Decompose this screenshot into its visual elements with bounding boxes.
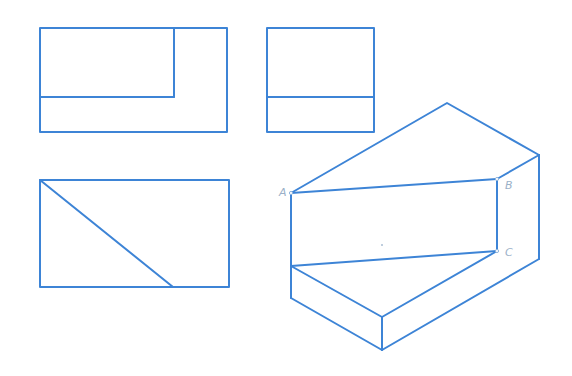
solid-edge-ab <box>291 179 497 193</box>
top-view-outline <box>40 180 229 287</box>
front-view-outline <box>40 28 227 132</box>
vertex-label-c: C <box>505 246 513 259</box>
solid-edge-leftmid-fronttop <box>291 266 382 317</box>
vertex-label-b: B <box>505 179 513 192</box>
solid-top-ridge <box>291 103 539 193</box>
isometric-solid: A B C <box>278 103 539 350</box>
solid-edge-c-fronttop <box>382 251 497 317</box>
top-view-diagonal <box>40 180 173 287</box>
solid-edge-leftbottom-frontbottom <box>291 298 382 350</box>
vertex-b-marker <box>495 177 498 180</box>
front-view <box>40 28 227 132</box>
side-view-outline <box>267 28 374 132</box>
solid-edge-b-right <box>497 155 539 179</box>
side-view <box>267 28 374 132</box>
vertex-c-marker <box>495 249 498 252</box>
vertex-a-marker <box>289 191 292 194</box>
center-speck <box>381 244 383 246</box>
diagram-canvas: A B C <box>0 0 572 376</box>
solid-edge-c-leftmid <box>291 251 497 266</box>
vertex-label-a: A <box>278 186 287 199</box>
top-view <box>40 180 229 287</box>
